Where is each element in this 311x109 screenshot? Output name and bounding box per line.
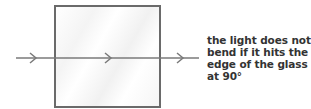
caption-line: bend if it hits the — [207, 46, 311, 58]
caption-line: the light does not — [207, 34, 311, 46]
caption-text: the light does not bend if it hits the e… — [207, 34, 311, 82]
caption-line: edge of the glass — [207, 58, 311, 70]
refraction-diagram: the light does not bend if it hits the e… — [0, 0, 311, 109]
caption-line: at 90° — [207, 70, 311, 82]
